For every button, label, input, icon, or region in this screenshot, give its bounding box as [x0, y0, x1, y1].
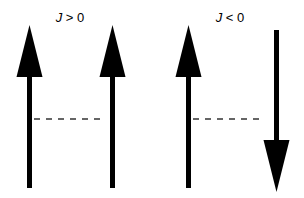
- label-j-negative: J < 0: [215, 10, 245, 25]
- spin-down-arrow-icon: [264, 30, 290, 192]
- spin-up-arrow-icon: [17, 25, 43, 188]
- panel-ferromagnetic: J > 0: [17, 10, 126, 188]
- exchange-coupling-diagram: J > 0 J < 0: [0, 0, 304, 198]
- spin-up-arrow-icon: [176, 25, 202, 188]
- label-j-positive: J > 0: [55, 10, 85, 25]
- spin-up-arrow-icon: [100, 25, 126, 188]
- panel-antiferromagnetic: J < 0: [176, 10, 290, 192]
